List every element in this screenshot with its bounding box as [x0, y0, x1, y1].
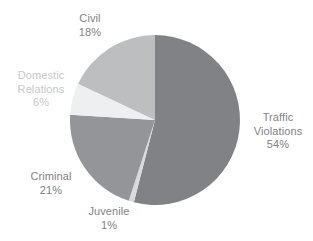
pie-label-domestic-relations-name-line1: Domestic	[2, 69, 80, 83]
pie-label-criminal-value: 21%	[12, 184, 90, 198]
pie-label-criminal: Criminal 21%	[12, 170, 90, 197]
pie-chart: Civil 18% Domestic Relations 6% Criminal…	[0, 0, 313, 241]
pie-label-juvenile-value: 1%	[73, 219, 145, 233]
pie-label-domestic-relations-value: 6%	[2, 96, 80, 110]
pie-label-traffic-violations-name-line2: Violations	[245, 125, 311, 139]
pie-label-traffic-violations-name-line1: Traffic	[245, 111, 311, 125]
pie-label-civil: Civil 18%	[56, 12, 124, 39]
pie-label-criminal-name: Criminal	[12, 170, 90, 184]
pie-label-juvenile-name: Juvenile	[73, 205, 145, 219]
pie-label-traffic-violations-value: 54%	[245, 138, 311, 152]
pie-label-domestic-relations-name-line2: Relations	[2, 83, 80, 97]
pie-label-civil-value: 18%	[56, 26, 124, 40]
pie-label-domestic-relations: Domestic Relations 6%	[2, 69, 80, 110]
pie-label-civil-name: Civil	[56, 12, 124, 26]
pie-label-juvenile: Juvenile 1%	[73, 205, 145, 232]
pie-label-traffic-violations: Traffic Violations 54%	[245, 111, 311, 152]
pie-slices	[70, 35, 240, 205]
